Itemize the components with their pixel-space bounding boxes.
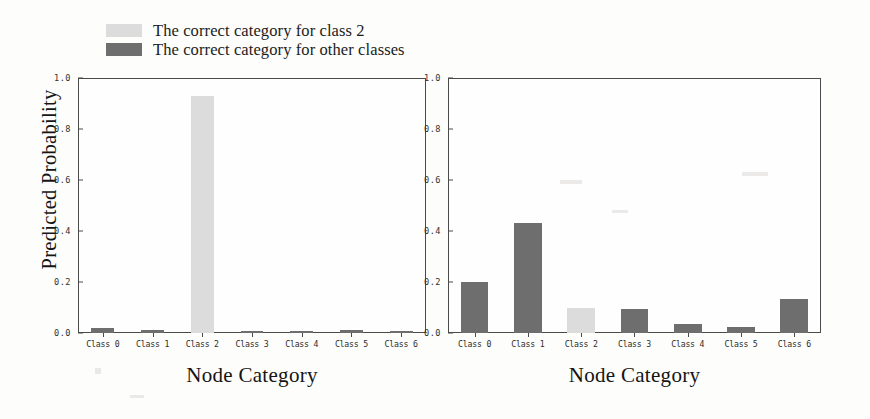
x-tick-mark (634, 333, 635, 337)
bar-class-0 (461, 282, 489, 333)
x-tick: Class 5 (327, 333, 377, 349)
y-tick-mark (448, 231, 453, 232)
x-tick-label: Class 2 (555, 339, 608, 349)
bar-cell (177, 78, 227, 333)
legend-label-other: The correct category for other classes (153, 41, 405, 58)
bar-class-3 (621, 309, 649, 333)
x-tick-mark (794, 333, 795, 337)
y-tick-label: 0.4 (424, 226, 448, 236)
bar-cell (768, 78, 821, 333)
y-tick-mark (78, 282, 83, 283)
y-tick-label: 1.0 (54, 73, 78, 83)
x-axis-left: Class 0Class 1Class 2Class 3Class 4Class… (78, 333, 426, 349)
y-tick-label: 0.6 (54, 175, 78, 185)
x-tick-label: Class 6 (376, 339, 426, 349)
x-tick-label: Class 2 (177, 339, 227, 349)
legend-label-class2: The correct category for class 2 (153, 22, 365, 39)
x-tick-mark (103, 333, 104, 337)
x-tick: Class 1 (501, 333, 554, 349)
bar-cell (327, 78, 377, 333)
bar-cell (78, 78, 128, 333)
bar-cell (608, 78, 661, 333)
bar-cell (277, 78, 327, 333)
x-tick: Class 2 (555, 333, 608, 349)
bars-right (448, 78, 821, 333)
x-tick-mark (252, 333, 253, 337)
y-tick-label: 1.0 (424, 73, 448, 83)
x-tick-mark (741, 333, 742, 337)
y-tick-mark (78, 129, 83, 130)
legend-item-other: The correct category for other classes (106, 41, 405, 58)
chart-panel-right: 0.00.20.40.60.81.0 Class 0Class 1Class 2… (448, 78, 821, 333)
scan-artifact (612, 210, 628, 213)
x-tick-label: Class 1 (501, 339, 554, 349)
x-tick-label: Class 3 (227, 339, 277, 349)
x-tick-mark (202, 333, 203, 337)
x-tick: Class 4 (277, 333, 327, 349)
scan-artifact (95, 368, 101, 374)
y-tick-label: 0.0 (54, 328, 78, 338)
y-tick-mark (448, 129, 453, 130)
bar-class-4 (674, 324, 702, 333)
x-tick-mark (528, 333, 529, 337)
scan-artifact (560, 180, 582, 184)
y-tick-label: 0.8 (54, 124, 78, 134)
legend-swatch-class2 (106, 24, 142, 37)
x-tick: Class 1 (128, 333, 178, 349)
x-tick: Class 3 (227, 333, 277, 349)
bar-cell (227, 78, 277, 333)
x-tick-mark (688, 333, 689, 337)
x-tick-mark (581, 333, 582, 337)
x-tick-mark (475, 333, 476, 337)
x-tick: Class 6 (376, 333, 426, 349)
x-tick-mark (401, 333, 402, 337)
bar-cell (661, 78, 714, 333)
y-tick-label: 0.2 (424, 277, 448, 287)
x-axis-title-left: Node Category (78, 363, 426, 388)
bar-class-1 (514, 223, 542, 333)
bar-cell (448, 78, 501, 333)
chart-panel-left: 0.00.20.40.60.81.0 Class 0Class 1Class 2… (78, 78, 426, 333)
x-tick: Class 2 (177, 333, 227, 349)
y-tick-label: 0.6 (424, 175, 448, 185)
y-tick-label: 0.4 (54, 226, 78, 236)
x-tick-label: Class 5 (714, 339, 767, 349)
x-tick: Class 4 (661, 333, 714, 349)
x-tick-mark (302, 333, 303, 337)
legend-item-class2: The correct category for class 2 (106, 22, 405, 39)
y-tick-label: 0.8 (424, 124, 448, 134)
bar-class-2 (567, 308, 595, 334)
y-tick-mark (78, 180, 83, 181)
y-tick-mark (448, 78, 453, 79)
bar-cell (555, 78, 608, 333)
x-tick: Class 3 (608, 333, 661, 349)
bars-left (78, 78, 426, 333)
x-axis-right: Class 0Class 1Class 2Class 3Class 4Class… (448, 333, 821, 349)
y-tick-label: 0.0 (424, 328, 448, 338)
bar-class-2 (191, 96, 214, 333)
x-tick: Class 6 (768, 333, 821, 349)
x-tick: Class 0 (448, 333, 501, 349)
scan-artifact (130, 395, 144, 398)
x-tick-label: Class 4 (661, 339, 714, 349)
x-tick: Class 0 (78, 333, 128, 349)
bar-cell (714, 78, 767, 333)
x-tick-mark (351, 333, 352, 337)
bar-cell (376, 78, 426, 333)
y-tick-mark (78, 78, 83, 79)
x-tick: Class 5 (714, 333, 767, 349)
x-axis-title-right: Node Category (448, 363, 821, 388)
x-tick-label: Class 3 (608, 339, 661, 349)
x-tick-label: Class 4 (277, 339, 327, 349)
y-tick-mark (78, 231, 83, 232)
y-tick-label: 0.2 (54, 277, 78, 287)
x-tick-label: Class 0 (78, 339, 128, 349)
x-tick-label: Class 5 (327, 339, 377, 349)
x-tick-label: Class 6 (768, 339, 821, 349)
figure-root: The correct category for class 2 The cor… (0, 0, 870, 419)
bar-cell (128, 78, 178, 333)
x-tick-mark (153, 333, 154, 337)
y-tick-mark (448, 282, 453, 283)
bar-class-6 (780, 299, 808, 333)
scan-artifact (742, 172, 768, 176)
